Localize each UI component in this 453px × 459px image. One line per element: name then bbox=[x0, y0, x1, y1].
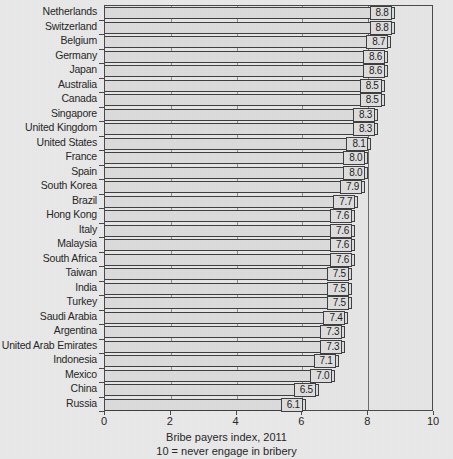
bar bbox=[105, 210, 355, 222]
bar-value-label: 8.7 bbox=[366, 35, 388, 49]
bar bbox=[105, 123, 378, 135]
y-axis-label-united-states: United States bbox=[37, 136, 97, 151]
x-axis-tick-label-6: 6 bbox=[298, 415, 304, 427]
bar bbox=[105, 355, 339, 367]
caption-line-1: Bribe payers index, 2011 bbox=[0, 430, 453, 444]
bar-row: 7.6 bbox=[105, 224, 432, 239]
y-axis-label-italy: Italy bbox=[79, 223, 97, 238]
bar bbox=[105, 297, 352, 309]
bar bbox=[105, 152, 368, 164]
y-axis-label-india: India bbox=[75, 281, 97, 296]
bar-row: 7.9 bbox=[105, 180, 432, 195]
bar-value-label: 7.6 bbox=[330, 253, 352, 267]
bar-value-label: 7.5 bbox=[327, 296, 349, 310]
y-axis-label-france: France bbox=[66, 150, 97, 165]
bar-row: 8.1 bbox=[105, 137, 432, 152]
bar-value-label: 7.1 bbox=[314, 354, 336, 368]
bar-row: 7.3 bbox=[105, 340, 432, 355]
bar bbox=[105, 51, 388, 63]
y-axis-label-mexico: Mexico bbox=[65, 368, 97, 383]
bar-value-label: 7.5 bbox=[327, 267, 349, 281]
y-axis-label-saudi-arabia: Saudi Arabia bbox=[40, 310, 97, 325]
y-axis-label-japan: Japan bbox=[69, 63, 97, 78]
bar-value-label: 8.6 bbox=[363, 64, 385, 78]
bar bbox=[105, 239, 355, 251]
bar bbox=[105, 109, 378, 121]
bar-value-label: 8.0 bbox=[343, 151, 365, 165]
bar bbox=[105, 254, 355, 266]
bar bbox=[105, 36, 391, 48]
bar-value-label: 8.6 bbox=[363, 50, 385, 64]
y-axis-label-turkey: Turkey bbox=[67, 295, 98, 310]
bar-value-label: 7.3 bbox=[320, 325, 342, 339]
bar bbox=[105, 341, 345, 353]
bar bbox=[105, 312, 348, 324]
y-axis-label-south-korea: South Korea bbox=[41, 179, 97, 194]
bar bbox=[105, 138, 371, 150]
bar bbox=[105, 399, 306, 411]
bar-row: 8.6 bbox=[105, 50, 432, 65]
bar bbox=[105, 283, 352, 295]
y-axis-label-russia: Russia bbox=[66, 397, 97, 412]
y-axis-label-united-kingdom: United Kingdom bbox=[25, 121, 97, 136]
bar bbox=[105, 80, 385, 92]
bar-value-label: 8.3 bbox=[353, 108, 375, 122]
y-axis-label-netherlands: Netherlands bbox=[43, 5, 97, 20]
y-axis-label-taiwan: Taiwan bbox=[66, 266, 97, 281]
bar-row: 7.6 bbox=[105, 209, 432, 224]
bar-row: 7.4 bbox=[105, 311, 432, 326]
bar-row: 8.0 bbox=[105, 151, 432, 166]
x-axis-tick-label-0: 0 bbox=[101, 415, 107, 427]
bar bbox=[105, 384, 319, 396]
y-axis-label-malaysia: Malaysia bbox=[57, 237, 97, 252]
y-axis-label-argentina: Argentina bbox=[54, 324, 97, 339]
x-axis-tick-label-4: 4 bbox=[233, 415, 239, 427]
bar-row: 6.1 bbox=[105, 398, 432, 413]
bar-row: 7.6 bbox=[105, 253, 432, 268]
bar-value-label: 7.7 bbox=[333, 195, 355, 209]
bar-row: 7.0 bbox=[105, 369, 432, 384]
y-axis-category-labels: NetherlandsSwitzerlandBelgiumGermanyJapa… bbox=[0, 5, 101, 411]
bribe-payers-index-chart: NetherlandsSwitzerlandBelgiumGermanyJapa… bbox=[0, 0, 453, 459]
bar bbox=[105, 65, 388, 77]
bar-value-label: 8.8 bbox=[370, 6, 392, 20]
bar-value-label: 8.5 bbox=[360, 93, 382, 107]
bar-row: 8.6 bbox=[105, 64, 432, 79]
bar-row: 6.5 bbox=[105, 383, 432, 398]
bar-row: 8.8 bbox=[105, 6, 432, 21]
bar bbox=[105, 326, 345, 338]
bar-value-label: 7.0 bbox=[310, 369, 332, 383]
y-axis-label-hong-kong: Hong Kong bbox=[46, 208, 97, 223]
bar-value-label: 8.3 bbox=[353, 122, 375, 136]
bar bbox=[105, 370, 335, 382]
y-axis-label-brazil: Brazil bbox=[72, 194, 97, 209]
y-axis-label-indonesia: Indonesia bbox=[53, 353, 97, 368]
bar-row: 8.3 bbox=[105, 108, 432, 123]
y-axis-label-belgium: Belgium bbox=[60, 34, 97, 49]
bar-value-label: 7.5 bbox=[327, 282, 349, 296]
bar bbox=[105, 225, 355, 237]
bar-value-label: 8.0 bbox=[343, 166, 365, 180]
bar-value-label: 6.5 bbox=[294, 383, 316, 397]
bar bbox=[105, 22, 395, 34]
bar-row: 8.8 bbox=[105, 21, 432, 36]
bar-value-label: 7.6 bbox=[330, 238, 352, 252]
bar bbox=[105, 167, 368, 179]
bar-value-label: 8.8 bbox=[370, 21, 392, 35]
bar bbox=[105, 196, 358, 208]
caption-line-2: 10 = never engage in bribery bbox=[0, 444, 453, 458]
bar-row: 8.0 bbox=[105, 166, 432, 181]
bar-row: 8.5 bbox=[105, 93, 432, 108]
bar-row: 7.5 bbox=[105, 282, 432, 297]
y-axis-label-spain: Spain bbox=[71, 165, 97, 180]
x-axis-tick-label-10: 10 bbox=[427, 415, 439, 427]
bar-row: 7.1 bbox=[105, 354, 432, 369]
y-axis-label-united-arab-emirates: United Arab Emirates bbox=[2, 339, 97, 354]
x-axis-tick-label-2: 2 bbox=[167, 415, 173, 427]
bar-value-label: 6.1 bbox=[281, 398, 303, 412]
y-axis-label-australia: Australia bbox=[58, 78, 97, 93]
bar-row: 7.5 bbox=[105, 296, 432, 311]
plot-area: 8.88.88.78.68.68.58.58.38.38.18.08.07.97… bbox=[104, 5, 433, 411]
bar-value-label: 7.6 bbox=[330, 224, 352, 238]
y-axis-label-switzerland: Switzerland bbox=[45, 20, 97, 35]
